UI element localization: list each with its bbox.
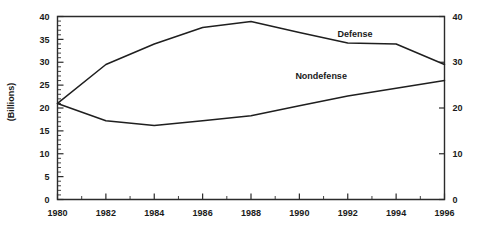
x-axis-label: 1980 — [47, 208, 67, 218]
y-axis-left-label: 10 — [39, 149, 49, 159]
series-line-nondefense — [58, 81, 445, 126]
series-label-defense: Defense — [337, 29, 372, 39]
x-axis-label: 1996 — [434, 208, 454, 218]
y-axis-right-label: 30 — [453, 57, 463, 67]
y-axis-left-label: 20 — [39, 103, 49, 113]
y-axis-right: 010203040 — [439, 12, 463, 205]
x-axis: 198019821984198619881990199219941996 — [47, 194, 454, 218]
y-axis-left-label: 5 — [44, 172, 49, 182]
x-axis-label: 1992 — [338, 208, 358, 218]
y-axis-left-label: 40 — [39, 12, 49, 22]
y-axis-left-label: 35 — [39, 35, 49, 45]
x-axis-label: 1990 — [289, 208, 309, 218]
x-axis-label: 1988 — [241, 208, 261, 218]
y-axis-left-label: 25 — [39, 80, 49, 90]
x-axis-label: 1984 — [144, 208, 164, 218]
y-axis-left-label: 15 — [39, 126, 49, 136]
y-axis-left: 0510152025303540 — [39, 12, 63, 205]
x-axis-label: 1982 — [96, 208, 116, 218]
x-axis-label: 1986 — [193, 208, 213, 218]
y-axis-right-label: 0 — [453, 195, 458, 205]
data-series-group — [58, 22, 445, 126]
chart-container: 0510152025303540010203040198019821984198… — [0, 0, 491, 234]
series-line-defense — [58, 22, 445, 104]
x-axis-label: 1994 — [386, 208, 406, 218]
y-axis-right-label: 10 — [453, 149, 463, 159]
series-annotations: DefenseNondefense — [295, 29, 372, 81]
y-axis-left-label: 0 — [44, 195, 49, 205]
y-axis-right-label: 20 — [453, 103, 463, 113]
line-chart: 0510152025303540010203040198019821984198… — [0, 0, 491, 234]
y-axis-title: (Billions) — [6, 83, 16, 122]
y-axis-right-label: 40 — [453, 12, 463, 22]
series-label-nondefense: Nondefense — [295, 71, 347, 81]
y-axis-left-label: 30 — [39, 57, 49, 67]
